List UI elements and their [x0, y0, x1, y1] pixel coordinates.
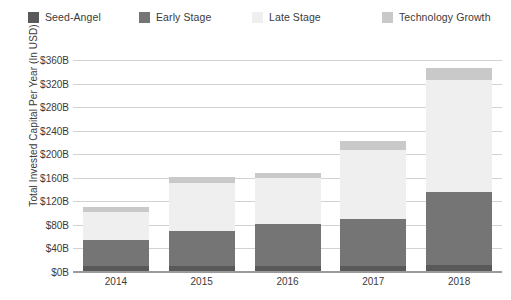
- legend-swatch-icon: [252, 12, 263, 23]
- legend-item[interactable]: Technology Growth: [382, 11, 491, 23]
- y-axis-tick-label: $240B: [11, 125, 69, 136]
- bar-segment[interactable]: [169, 177, 235, 183]
- bar-stack[interactable]: [169, 60, 235, 272]
- y-axis-tick-label: $360B: [11, 55, 69, 66]
- bar-segment[interactable]: [169, 183, 235, 232]
- x-axis-tick-label: 2016: [276, 276, 298, 287]
- y-axis-tick-label: $80B: [11, 219, 69, 230]
- legend-item[interactable]: Seed-Angel: [28, 11, 101, 23]
- legend-item-label: Seed-Angel: [45, 11, 101, 23]
- bar-stack[interactable]: [426, 60, 492, 272]
- y-axis-tick-label: $200B: [11, 149, 69, 160]
- plot-area: $0B$40B$80B$120B$160B$200B$240B$280B$320…: [73, 60, 502, 272]
- x-axis-line: [73, 271, 502, 272]
- bar-stack[interactable]: [340, 60, 406, 272]
- bar-segment[interactable]: [426, 80, 492, 192]
- legend-item[interactable]: Early Stage: [139, 11, 211, 23]
- bar-segment[interactable]: [83, 212, 149, 240]
- legend-item[interactable]: Late Stage: [252, 11, 321, 23]
- bar-segment[interactable]: [426, 68, 492, 80]
- y-axis-tick-label: $320B: [11, 78, 69, 89]
- bar-segment[interactable]: [255, 224, 321, 265]
- bar-segment[interactable]: [426, 192, 492, 265]
- bar-segment[interactable]: [255, 173, 321, 178]
- legend-swatch-icon: [139, 12, 150, 23]
- legend-item-label: Early Stage: [156, 11, 211, 23]
- bar-stack[interactable]: [83, 60, 149, 272]
- y-axis-tick-label: $40B: [11, 243, 69, 254]
- x-axis-tick-label: 2017: [362, 276, 384, 287]
- x-axis-tick-label: 2018: [448, 276, 470, 287]
- y-axis-tick-label: $280B: [11, 102, 69, 113]
- y-axis-tick-label: $160B: [11, 172, 69, 183]
- y-axis-tick-label: $0B: [11, 267, 69, 278]
- bar-segment[interactable]: [83, 240, 149, 266]
- bar-segment[interactable]: [340, 219, 406, 266]
- legend-item-label: Technology Growth: [399, 11, 491, 23]
- gridline: [73, 272, 502, 273]
- bar-segment[interactable]: [340, 141, 406, 150]
- bar-segment[interactable]: [169, 231, 235, 265]
- chart-legend: Seed-AngelEarly StageLate StageTechnolog…: [0, 0, 511, 34]
- stacked-bar-chart: Seed-AngelEarly StageLate StageTechnolog…: [0, 0, 511, 300]
- legend-item-label: Late Stage: [269, 11, 321, 23]
- x-axis-tick-label: 2015: [191, 276, 213, 287]
- legend-swatch-icon: [382, 12, 393, 23]
- x-axis-tick-label: 2014: [105, 276, 127, 287]
- bar-segment[interactable]: [340, 150, 406, 219]
- bar-segment[interactable]: [83, 207, 149, 212]
- bar-segment[interactable]: [255, 178, 321, 225]
- bar-stack[interactable]: [255, 60, 321, 272]
- y-axis-tick-label: $120B: [11, 196, 69, 207]
